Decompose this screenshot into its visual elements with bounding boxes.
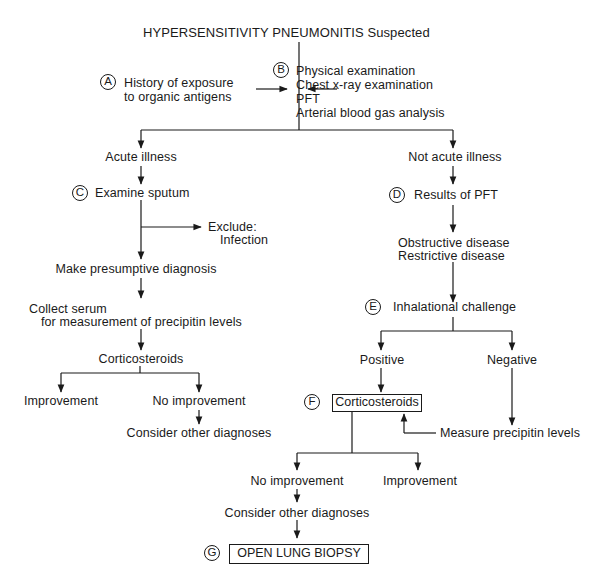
- step-marker-g: G: [204, 545, 220, 561]
- step-marker-c: C: [72, 185, 88, 201]
- step-b-text-3: PFT: [296, 92, 320, 106]
- left-improvement-label: Improvement: [24, 394, 98, 408]
- step-g-text: OPEN LUNG BIOPSY: [237, 546, 361, 560]
- step-marker-b: B: [273, 62, 289, 78]
- restrictive-disease-label: Restrictive disease: [398, 249, 505, 263]
- flowchart: HYPERSENSITIVITY PNEUMONITIS Suspected A…: [0, 0, 609, 581]
- right-improvement-label: Improvement: [383, 474, 457, 488]
- diagram-title: HYPERSENSITIVITY PNEUMONITIS Suspected: [143, 26, 430, 40]
- negative-label: Negative: [487, 353, 537, 367]
- left-corticosteroids-label: Corticosteroids: [99, 352, 184, 366]
- collect-serum-label: Collect serum: [29, 302, 107, 316]
- step-b-text-2: Chest x-ray examination: [296, 78, 433, 92]
- step-e-text: Inhalational challenge: [393, 300, 516, 314]
- step-a-text-1: History of exposure: [124, 76, 234, 90]
- step-d-text: Results of PFT: [414, 188, 498, 202]
- obstructive-disease-label: Obstructive disease: [398, 236, 510, 250]
- positive-label: Positive: [360, 353, 405, 367]
- presumptive-diagnosis-label: Make presumptive diagnosis: [55, 262, 216, 276]
- step-c-text: Examine sputum: [95, 186, 190, 200]
- measure-precipitin-label: Measure precipitin levels: [440, 426, 580, 440]
- right-no-improvement-label: No improvement: [250, 474, 343, 488]
- step-f-text: Corticosteroids: [335, 395, 418, 409]
- infection-label: Infection: [220, 233, 268, 247]
- step-marker-f: F: [304, 394, 320, 410]
- step-marker-d: D: [389, 187, 405, 203]
- step-g-box: OPEN LUNG BIOPSY: [229, 544, 369, 564]
- step-f-box: Corticosteroids: [332, 394, 422, 412]
- exclude-label: Exclude:: [208, 220, 257, 234]
- precipitin-measurement-label: for measurement of precipitin levels: [41, 315, 242, 329]
- right-consider-label: Consider other diagnoses: [225, 506, 370, 520]
- step-b-text-4: Arterial blood gas analysis: [296, 106, 445, 120]
- not-acute-illness-label: Not acute illness: [408, 150, 501, 164]
- step-a-text-2: to organic antigens: [124, 90, 232, 104]
- left-no-improvement-label: No improvement: [152, 394, 245, 408]
- acute-illness-label: Acute illness: [105, 150, 176, 164]
- step-marker-e: E: [365, 299, 381, 315]
- step-marker-a: A: [100, 74, 116, 90]
- step-b-text-1: Physical examination: [296, 64, 415, 78]
- left-consider-label: Consider other diagnoses: [127, 426, 272, 440]
